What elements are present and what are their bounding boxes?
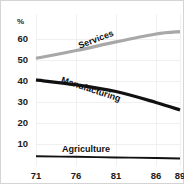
sector-share-line-chart: % 102030405060 7176818689 ServicesManufa… <box>0 0 184 184</box>
series-label-manufacturing: Manufacturing <box>60 75 122 104</box>
series-label-agriculture: Agriculture <box>62 144 110 154</box>
x-axis-tick-label: 71 <box>31 170 42 181</box>
series-line-agriculture <box>36 156 180 158</box>
y-axis-tick-label: 10 <box>17 138 28 149</box>
x-axis-tick-labels: 7176818689 <box>31 170 184 181</box>
y-axis-tick-label: 60 <box>17 33 28 44</box>
y-axis-tick-label: 40 <box>17 75 28 86</box>
x-axis-tick-label: 89 <box>175 170 184 181</box>
chart-canvas: % 102030405060 7176818689 ServicesManufa… <box>0 0 184 184</box>
y-axis-tick-label: 20 <box>17 117 28 128</box>
x-axis-tick-label: 76 <box>71 170 82 181</box>
x-axis-tick-label: 81 <box>111 170 122 181</box>
y-axis-tick-label: 50 <box>17 54 28 65</box>
y-axis-tick-label: 30 <box>17 96 28 107</box>
y-axis-unit-label: % <box>17 17 24 26</box>
y-axis-tick-labels: 102030405060 <box>17 33 28 149</box>
x-axis-tick-label: 86 <box>151 170 162 181</box>
